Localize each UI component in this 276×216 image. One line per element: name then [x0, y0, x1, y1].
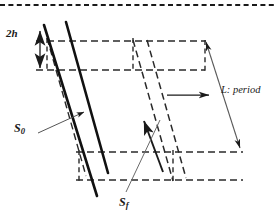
- bedding-plane-label: S0: [14, 122, 25, 134]
- s0-band-line-lower: [44, 25, 97, 196]
- diagram-vector-layer: [0, 0, 276, 216]
- s0-band-line-upper: [66, 22, 108, 173]
- s0-subscript: 0: [21, 126, 25, 136]
- foliation-plane-label: Sf: [119, 196, 129, 208]
- sf-internal-arrow: [144, 121, 163, 172]
- period-label: L: period: [221, 85, 260, 96]
- diagram-canvas: 2h S0 Sf L: period: [0, 0, 276, 216]
- dashed-slant-left-a: [47, 38, 86, 176]
- sf-base: S: [119, 195, 126, 209]
- thickness-label: 2h: [6, 28, 18, 39]
- sf-leader-line: [126, 120, 160, 192]
- s0-base: S: [14, 121, 21, 135]
- dashed-slant-sf-a: [133, 40, 173, 181]
- sf-subscript: f: [126, 200, 129, 210]
